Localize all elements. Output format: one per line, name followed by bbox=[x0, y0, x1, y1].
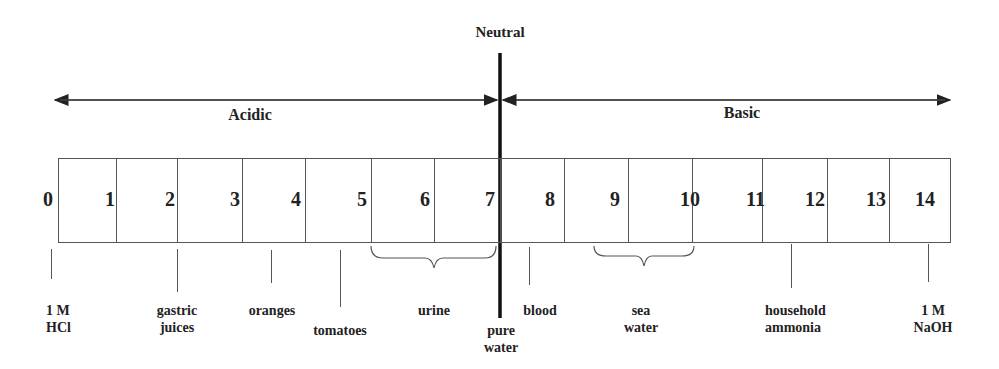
sea-water-brace bbox=[594, 246, 694, 266]
ph-number: 0 bbox=[43, 188, 53, 210]
substance-pure-water: purewater bbox=[476, 322, 526, 356]
neutral-label: Neutral bbox=[462, 24, 538, 41]
substance-sea-water: seawater bbox=[611, 302, 671, 336]
hcl-pointer bbox=[51, 249, 52, 279]
tomatoes-pointer bbox=[340, 250, 341, 307]
ph-number: 4 bbox=[291, 188, 301, 210]
substance-blood: blood bbox=[510, 302, 570, 319]
substance-naoh: 1 MNaOH bbox=[908, 302, 958, 336]
naoh-pointer bbox=[928, 244, 929, 282]
ph-number: 5 bbox=[357, 188, 367, 210]
substance-oranges: oranges bbox=[237, 302, 307, 319]
substance-tomatoes: tomatoes bbox=[300, 322, 380, 339]
substance-household-ammonia: householdammonia bbox=[765, 302, 845, 336]
scale-cell bbox=[500, 158, 565, 243]
ph-number: 7 bbox=[485, 188, 495, 210]
urine-brace bbox=[371, 246, 496, 268]
ph-number: 13 bbox=[866, 188, 886, 210]
ph-number: 6 bbox=[420, 188, 430, 210]
ph-number: 11 bbox=[746, 188, 765, 210]
ph-number: 3 bbox=[230, 188, 240, 210]
ph-number: 8 bbox=[545, 188, 555, 210]
substance-hcl: 1 MHCl bbox=[30, 302, 90, 336]
oranges-pointer bbox=[271, 250, 272, 283]
ph-number: 10 bbox=[680, 188, 700, 210]
ph-number: 12 bbox=[805, 188, 825, 210]
ph-number: 9 bbox=[610, 188, 620, 210]
substance-gastric-juices: gastricjuices bbox=[142, 302, 212, 336]
substance-urine: urine bbox=[404, 302, 464, 319]
ph-number: 14 bbox=[915, 188, 935, 210]
gastric-pointer bbox=[177, 249, 178, 292]
ph-number: 2 bbox=[165, 188, 175, 210]
acidic-label: Acidic bbox=[210, 106, 290, 123]
basic-label: Basic bbox=[702, 104, 782, 121]
ammonia-pointer bbox=[791, 244, 792, 288]
ph-number: 1 bbox=[105, 188, 115, 210]
blood-pointer bbox=[529, 247, 530, 285]
